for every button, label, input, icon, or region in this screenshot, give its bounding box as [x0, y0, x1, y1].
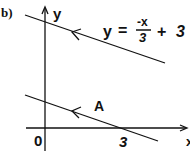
part-label: b) — [1, 5, 13, 20]
equation-numerator: -x — [137, 15, 148, 29]
equation-equals: = — [118, 22, 127, 39]
graph-diagram: b) y x 0 3 A y = -x 3 + 3 — [0, 0, 190, 151]
x-axis-label: x — [186, 134, 190, 149]
y-axis-label: y — [53, 5, 62, 22]
equation-lhs: y — [103, 23, 112, 40]
x-intercept-label: 3 — [119, 133, 128, 150]
origin-label: 0 — [34, 132, 42, 149]
equation-denominator: 3 — [139, 30, 147, 45]
equation: y = -x 3 + 3 — [103, 15, 185, 45]
equation-constant: 3 — [176, 23, 185, 40]
point-a-label: A — [94, 98, 104, 114]
upper-line-arrow-icon — [72, 29, 81, 40]
equation-plus: + — [157, 23, 166, 40]
